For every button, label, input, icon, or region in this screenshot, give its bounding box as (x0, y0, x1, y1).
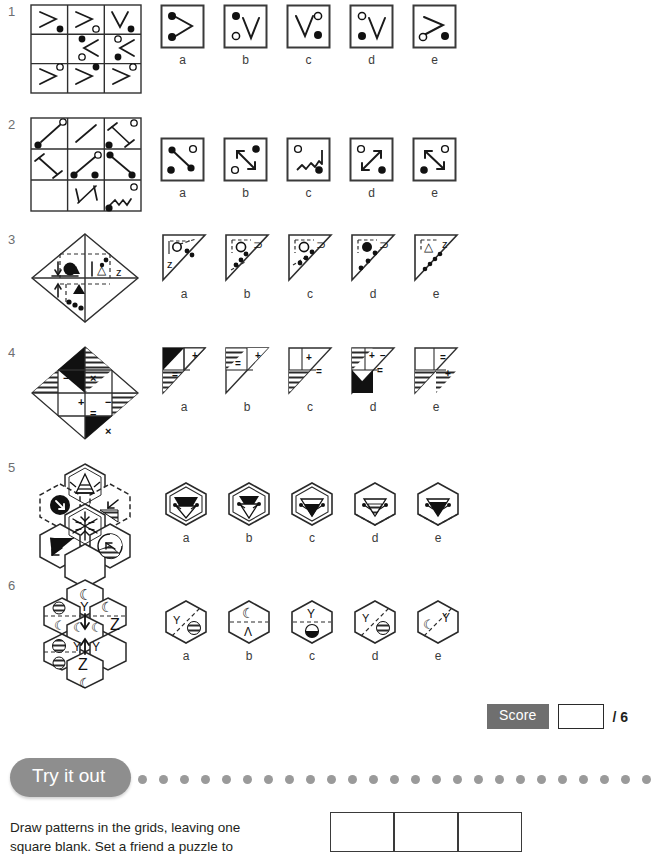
option-2-d-label: d (349, 186, 394, 200)
option-4-b[interactable]: + = b (223, 345, 271, 397)
divider-dot (537, 775, 546, 784)
option-1-d[interactable]: d (349, 4, 394, 49)
option-2-a[interactable]: a (160, 137, 205, 182)
option-3-c-label: c (286, 287, 334, 301)
try-it-out-banner: Try it out (10, 758, 131, 797)
option-1-e[interactable]: e (412, 4, 457, 49)
svg-text:Y: Y (307, 607, 315, 621)
svg-text:Y: Y (362, 612, 370, 624)
svg-text:Z: Z (78, 656, 88, 673)
option-1-c[interactable]: c (286, 4, 331, 49)
option-4-d[interactable]: + − = d (349, 345, 397, 397)
divider-dot (138, 775, 147, 784)
divider-dot (558, 775, 567, 784)
option-4-e[interactable]: = + e (412, 345, 460, 397)
option-6-e-label: e (412, 649, 464, 663)
divider-dot (621, 775, 630, 784)
option-6-a[interactable]: Y a (160, 598, 212, 646)
option-3-c[interactable]: ⊃ c (286, 232, 334, 284)
dot-divider (138, 775, 648, 787)
option-6-d[interactable]: Y d (349, 598, 401, 646)
option-6-c[interactable]: Y c (286, 598, 338, 646)
option-3-b[interactable]: ⊃ b (223, 232, 271, 284)
option-6-c-label: c (286, 649, 338, 663)
divider-dot (390, 775, 399, 784)
option-2-e[interactable]: e (412, 137, 457, 182)
svg-text:=: = (235, 358, 241, 369)
svg-text:⊃: ⊃ (316, 238, 326, 252)
option-5-d[interactable]: d (349, 480, 401, 528)
divider-dot (495, 775, 504, 784)
option-5-a[interactable]: a (160, 480, 212, 528)
svg-text:△: △ (424, 240, 434, 254)
svg-text:−: − (380, 350, 386, 361)
svg-text:Z: Z (110, 616, 120, 633)
svg-text:+: + (255, 350, 261, 361)
option-5-c-label: c (286, 531, 338, 545)
option-6-e[interactable]: ☾ Y e (412, 598, 464, 646)
question-2-options: a b (160, 117, 440, 217)
option-2-d[interactable]: d (349, 137, 394, 182)
divider-dot (516, 775, 525, 784)
option-1-a[interactable]: a (160, 4, 205, 49)
score-input-box[interactable] (558, 704, 604, 729)
option-1-b[interactable]: b (223, 4, 268, 49)
svg-text:=: = (90, 407, 96, 419)
divider-dot (306, 775, 315, 784)
option-3-a-label: a (160, 287, 208, 301)
svg-text:z: z (116, 266, 122, 278)
option-4-a[interactable]: + = a (160, 345, 208, 397)
question-row-3: 3 (0, 232, 648, 332)
option-4-a-label: a (160, 400, 208, 414)
svg-text:☾: ☾ (242, 605, 255, 621)
svg-text:Y: Y (173, 614, 181, 626)
option-1-d-label: d (349, 53, 394, 67)
grid-cell[interactable] (330, 812, 394, 852)
svg-text:=: = (172, 369, 178, 380)
option-6-a-label: a (160, 649, 212, 663)
svg-text:Y: Y (73, 640, 81, 654)
option-3-a[interactable]: z a (160, 232, 208, 284)
svg-text:Y: Y (80, 599, 89, 614)
grid-cell[interactable] (458, 812, 522, 852)
question-row-2: 2 (0, 117, 648, 217)
svg-text:☾: ☾ (79, 675, 92, 691)
option-4-c[interactable]: + = c (286, 345, 334, 397)
question-4-stem-diamond: − × + − = × (30, 345, 140, 441)
option-1-a-label: a (160, 53, 205, 67)
svg-text:☾: ☾ (423, 617, 435, 632)
option-3-b-label: b (223, 287, 271, 301)
option-5-a-label: a (160, 531, 212, 545)
divider-dot (243, 775, 252, 784)
option-3-e[interactable]: △ z e (412, 232, 460, 284)
svg-text:+: + (192, 350, 198, 361)
option-3-d-label: d (349, 287, 397, 301)
option-2-c[interactable]: c (286, 137, 331, 182)
question-6-options: Y a ☾ Λ b Y (160, 598, 440, 708)
question-4-options: + = a + = b (160, 345, 440, 445)
divider-dot (474, 775, 483, 784)
divider-dot (201, 775, 210, 784)
option-6-b[interactable]: ☾ Λ b (223, 598, 275, 646)
option-3-d[interactable]: ⊃ d (349, 232, 397, 284)
option-5-b[interactable]: b (223, 480, 275, 528)
svg-text:☾: ☾ (101, 599, 114, 615)
instructions-line-1: Draw patterns in the grids, leaving one (10, 818, 310, 837)
question-row-6: 6 ☾ ☾ ☾ (0, 578, 648, 688)
score-total: / 6 (613, 709, 629, 725)
option-6-d-label: d (349, 649, 401, 663)
option-5-e[interactable]: e (412, 480, 464, 528)
divider-dot (411, 775, 420, 784)
svg-text:+: + (306, 352, 312, 363)
svg-text:×: × (90, 372, 96, 384)
option-5-c[interactable]: c (286, 480, 338, 528)
grid-cell[interactable] (394, 812, 458, 852)
question-5-options: a b (160, 480, 440, 590)
option-4-e-label: e (412, 400, 460, 414)
divider-dot (327, 775, 336, 784)
option-5-e-label: e (412, 531, 464, 545)
question-number-2: 2 (8, 117, 15, 132)
option-2-b[interactable]: b (223, 137, 268, 182)
score-label: Score (487, 704, 549, 728)
option-5-d-label: d (349, 531, 401, 545)
